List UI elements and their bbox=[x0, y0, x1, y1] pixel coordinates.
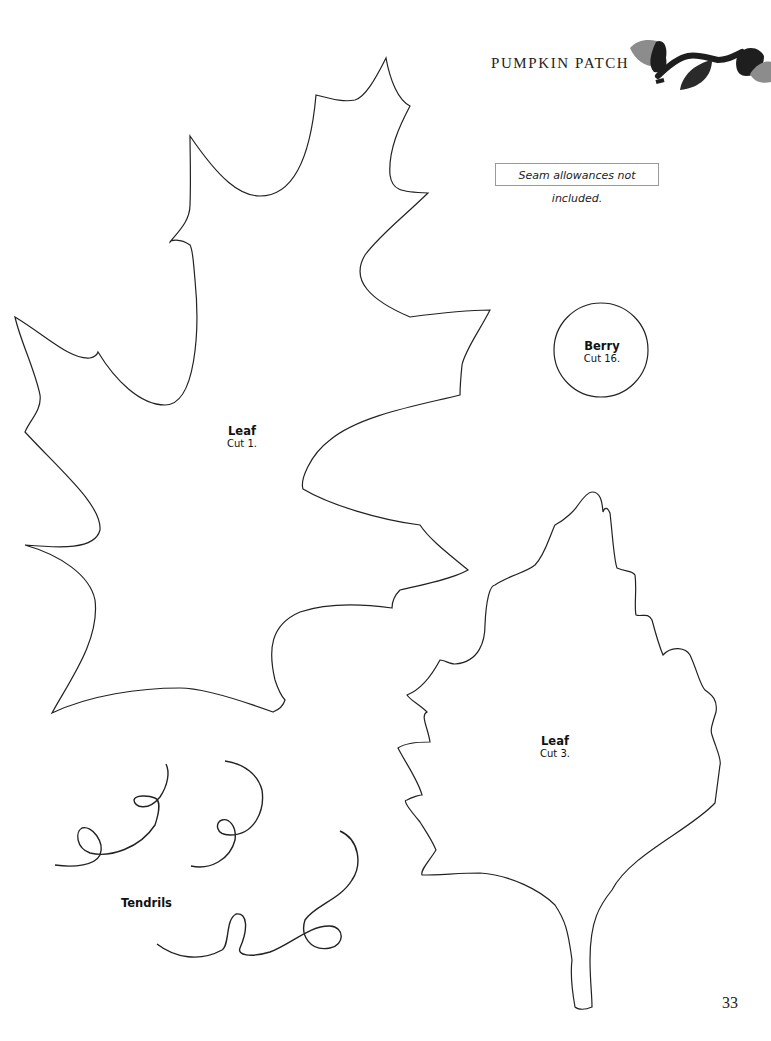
tendril-2 bbox=[191, 761, 263, 867]
leaf-large-cut: Cut 1. bbox=[222, 438, 262, 450]
berry-cut: Cut 16. bbox=[580, 353, 624, 365]
leaf-small-name: Leaf bbox=[535, 735, 575, 748]
berry-name: Berry bbox=[580, 340, 624, 353]
tendrils-label: Tendrils bbox=[121, 896, 172, 910]
page-number: 33 bbox=[722, 994, 738, 1012]
leaf-large-label: Leaf Cut 1. bbox=[222, 425, 262, 450]
leaf-small-label: Leaf Cut 3. bbox=[535, 735, 575, 760]
tendril-3 bbox=[157, 831, 358, 957]
leaf-large-outline bbox=[15, 58, 490, 713]
berry-label: Berry Cut 16. bbox=[580, 340, 624, 365]
leaf-large-name: Leaf bbox=[222, 425, 262, 438]
tendril-1 bbox=[55, 764, 168, 866]
pattern-pieces bbox=[0, 0, 771, 1041]
leaf-small-cut: Cut 3. bbox=[535, 748, 575, 760]
